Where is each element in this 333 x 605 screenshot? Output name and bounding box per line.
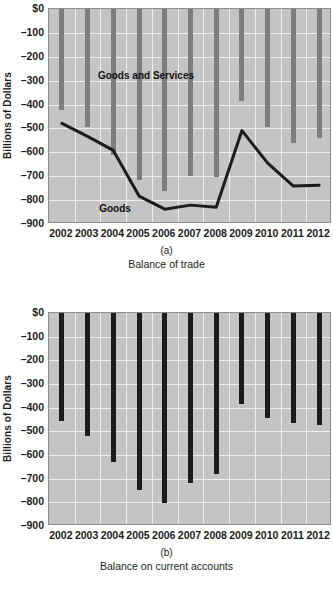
y-axis-ticks-a: $0–100–200–300–400–500–600–700–800–900 xyxy=(0,8,44,223)
bar xyxy=(85,313,90,436)
x-tick-label: 2007 xyxy=(178,227,201,239)
y-tick-label: –500 xyxy=(21,121,44,133)
x-tick-label: 2012 xyxy=(306,529,329,541)
y-tick-label: –800 xyxy=(21,193,44,205)
line-series-goods xyxy=(49,9,331,223)
y-tick-label: –600 xyxy=(21,145,44,157)
x-tick-label: 2009 xyxy=(229,227,252,239)
figure-panel-b: Billions of Dollars $0–100–200–300–400–5… xyxy=(0,300,333,605)
y-tick-label: –100 xyxy=(21,26,44,38)
y-tick-label: –700 xyxy=(21,472,44,484)
gridline-vertical xyxy=(306,313,307,524)
bar xyxy=(214,313,219,474)
x-tick-label: 2003 xyxy=(75,529,98,541)
x-tick-label: 2010 xyxy=(255,227,278,239)
bar xyxy=(111,313,116,462)
y-tick-label: –900 xyxy=(21,519,44,531)
annotation-goods: Goods xyxy=(99,203,131,214)
x-tick-label: 2011 xyxy=(281,529,304,541)
page-bottom-bleed xyxy=(0,597,333,605)
bar xyxy=(188,313,193,483)
bar xyxy=(239,313,244,404)
y-tick-label: –200 xyxy=(21,353,44,365)
y-tick-label: –500 xyxy=(21,424,44,436)
line-path-goods xyxy=(62,123,319,209)
gridline-vertical xyxy=(75,313,76,524)
panel-letter-a: (a) xyxy=(0,245,333,256)
panel-caption-b: Balance on current accounts xyxy=(0,560,333,572)
bar xyxy=(59,313,64,421)
x-tick-label: 2008 xyxy=(204,529,227,541)
x-tick-label: 2003 xyxy=(75,227,98,239)
x-tick-label: 2002 xyxy=(49,529,72,541)
y-tick-label: –700 xyxy=(21,169,44,181)
x-tick-label: 2011 xyxy=(281,227,304,239)
gridline-vertical xyxy=(178,313,179,524)
x-tick-label: 2012 xyxy=(306,227,329,239)
x-tick-label: 2009 xyxy=(229,529,252,541)
bar xyxy=(265,313,270,418)
y-tick-label: –900 xyxy=(21,217,44,229)
x-tick-label: 2006 xyxy=(152,529,175,541)
panel-letter-b: (b) xyxy=(0,547,333,558)
gridline-vertical xyxy=(281,313,282,524)
x-tick-label: 2007 xyxy=(178,529,201,541)
y-tick-label: –800 xyxy=(21,495,44,507)
annotation-goods-and-services: Goods and Services xyxy=(98,70,194,81)
plot-area-b xyxy=(48,312,331,525)
y-tick-label: –200 xyxy=(21,50,44,62)
bar xyxy=(291,313,296,423)
y-tick-label: –400 xyxy=(21,98,44,110)
y-tick-label: –600 xyxy=(21,448,44,460)
x-tick-label: 2006 xyxy=(152,227,175,239)
y-tick-label: –100 xyxy=(21,330,44,342)
x-tick-label: 2002 xyxy=(49,227,72,239)
y-tick-label: –300 xyxy=(21,74,44,86)
gridline-vertical xyxy=(100,313,101,524)
x-tick-label: 2008 xyxy=(204,227,227,239)
gridline-horizontal xyxy=(49,502,330,503)
x-tick-label: 2004 xyxy=(101,529,124,541)
plot-area-a: Goods and Services Goods xyxy=(48,8,331,223)
x-tick-label: 2005 xyxy=(126,529,149,541)
x-tick-label: 2004 xyxy=(101,227,124,239)
bar xyxy=(162,313,167,503)
y-tick-label: $0 xyxy=(32,306,44,318)
y-tick-label: $0 xyxy=(32,2,44,14)
y-tick-label: –400 xyxy=(21,401,44,413)
x-tick-label: 2005 xyxy=(126,227,149,239)
gridline-vertical xyxy=(229,313,230,524)
gridline-vertical xyxy=(255,313,256,524)
figure-panel-a: Billions of Dollars $0–100–200–300–400–5… xyxy=(0,0,333,282)
x-tick-label: 2010 xyxy=(255,529,278,541)
bar xyxy=(137,313,142,490)
gridline-vertical xyxy=(203,313,204,524)
gridline-vertical xyxy=(152,313,153,524)
y-axis-ticks-b: $0–100–200–300–400–500–600–700–800–900 xyxy=(0,312,44,525)
bar xyxy=(317,313,322,425)
gridline-vertical xyxy=(126,313,127,524)
y-tick-label: –300 xyxy=(21,377,44,389)
panel-caption-a: Balance of trade xyxy=(0,258,333,270)
